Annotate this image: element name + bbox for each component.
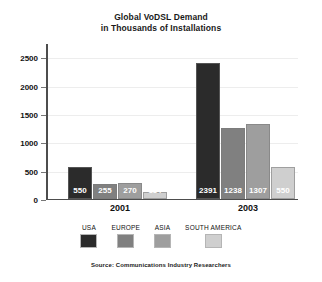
legend-label: USA <box>82 224 96 231</box>
bar: 1238 <box>221 128 245 198</box>
y-axis-tick-label: 1000 <box>20 139 38 148</box>
x-axis-label: 2003 <box>196 203 300 213</box>
x-axis-line <box>46 199 298 201</box>
legend-item[interactable]: SOUTH AMERICA <box>185 224 241 248</box>
legend-label: EUROPE <box>111 224 140 231</box>
bar-value-label: 1307 <box>247 186 269 195</box>
bar: 114 <box>143 192 167 198</box>
x-axis-label: 2001 <box>68 203 172 213</box>
chart-title-line-1: Global VoDSL Demand <box>0 12 322 23</box>
legend-label: ASIA <box>155 224 171 231</box>
chart-title-line-2: in Thousands of Installations <box>0 23 322 34</box>
chart-source-note: Source: Communications Industry Research… <box>0 262 322 268</box>
bar: 550 <box>68 167 92 198</box>
y-axis-tick-label: 500 <box>25 167 38 176</box>
legend-swatch <box>205 234 222 248</box>
y-axis-tick-label: 2000 <box>20 82 38 91</box>
bar: 2391 <box>196 63 220 199</box>
bar-group: 239112381307550 <box>196 44 300 199</box>
bar-value-label: 114 <box>144 186 166 195</box>
legend-swatch <box>154 234 171 248</box>
legend-swatch <box>80 234 97 248</box>
bar-value-label: 550 <box>69 186 91 195</box>
bar-value-label: 255 <box>94 186 116 195</box>
legend-item[interactable]: USA <box>80 224 97 248</box>
bar: 1307 <box>246 124 270 198</box>
legend-label: SOUTH AMERICA <box>185 224 241 231</box>
bar-value-label: 1238 <box>222 186 244 195</box>
bar-value-label: 270 <box>119 186 141 195</box>
bar-value-label: 550 <box>272 186 294 195</box>
chart-legend: USAEUROPEASIASOUTH AMERICA <box>0 224 322 248</box>
bar-group: 550255270114 <box>68 44 172 199</box>
legend-item[interactable]: ASIA <box>154 224 171 248</box>
plot-area: 550255270114239112381307550 <box>46 44 298 200</box>
chart-title: Global VoDSL Demand in Thousands of Inst… <box>0 12 322 34</box>
bar-series-group: 550255270114239112381307550 <box>48 44 298 199</box>
y-axis-tick-label: 0 <box>34 196 38 205</box>
bar-value-label: 2391 <box>197 186 219 195</box>
y-axis-tick-label: 2500 <box>20 54 38 63</box>
chart-container: Global VoDSL Demand in Thousands of Inst… <box>0 0 322 282</box>
legend-item[interactable]: EUROPE <box>111 224 140 248</box>
bar: 255 <box>93 184 117 198</box>
bar: 550 <box>271 167 295 198</box>
legend-swatch <box>117 234 134 248</box>
y-axis-tick-label: 1500 <box>20 110 38 119</box>
y-axis-tick <box>41 200 46 201</box>
y-axis-tick-labels: 05001000150020002500 <box>0 44 44 200</box>
bar: 270 <box>118 183 142 198</box>
